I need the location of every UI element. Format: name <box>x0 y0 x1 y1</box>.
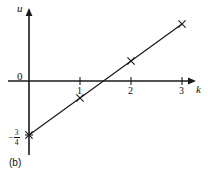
x-tick-label-3: 3 <box>179 86 184 96</box>
figure-panel: u k 0 1 2 3 − 3 4 (b) <box>0 0 208 180</box>
fraction-minus-sign: − <box>8 133 13 142</box>
data-point-k3 <box>178 20 185 27</box>
x-tick-label-2: 2 <box>128 86 133 96</box>
figure-caption: (b) <box>9 158 21 168</box>
y-tick-label-neg-three-quarters: − 3 4 <box>8 129 20 146</box>
y-axis-label: u <box>17 3 23 14</box>
x-axis-label: k <box>196 84 201 95</box>
data-point-k2 <box>127 57 134 64</box>
data-line-series-1 <box>29 24 182 135</box>
y-axis-arrow-icon <box>26 8 33 16</box>
fraction-numerator: 3 <box>14 129 20 137</box>
origin-label: 0 <box>17 71 23 82</box>
x-axis-arrow-icon <box>188 78 196 85</box>
fraction: 3 4 <box>14 129 20 146</box>
x-tick-label-1: 1 <box>77 86 82 96</box>
fraction-denominator: 4 <box>14 139 20 147</box>
chart-canvas <box>0 0 208 180</box>
